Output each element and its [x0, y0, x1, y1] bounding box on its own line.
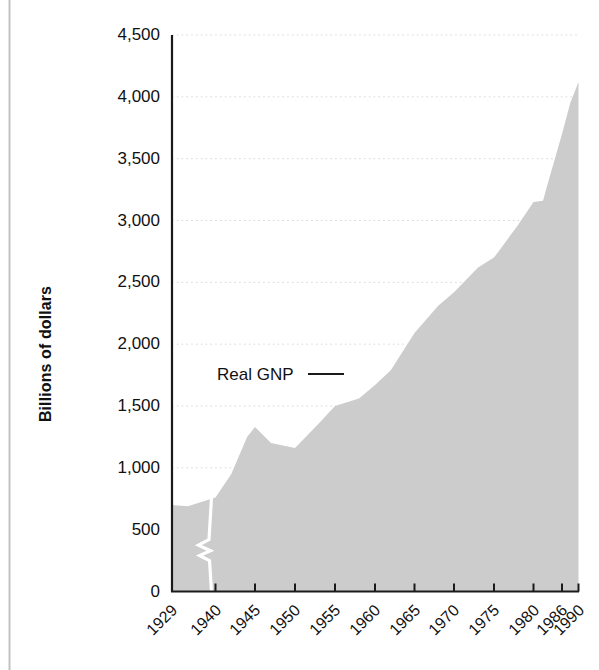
figure-root: Billions of dollars 05001,0001,5002,0002…	[0, 0, 599, 670]
y-tick-label-4000: 4,000	[117, 88, 160, 105]
y-tick-label-3000: 3,000	[117, 212, 160, 229]
chart-canvas	[0, 0, 599, 670]
y-tick-label-2000: 2,000	[117, 335, 160, 352]
area-series-real-gnp	[172, 82, 579, 592]
y-tick-label-2500: 2,500	[117, 273, 160, 290]
y-tick-label-3500: 3,500	[117, 150, 160, 167]
y-tick-label-4500: 4,500	[117, 26, 160, 43]
y-tick-label-500: 500	[132, 521, 160, 538]
y-tick-label-1500: 1,500	[117, 397, 160, 414]
y-tick-label-1000: 1,000	[117, 459, 160, 476]
y-tick-label-0: 0	[151, 583, 160, 600]
series-annotation-real-gnp: Real GNP	[217, 366, 294, 383]
